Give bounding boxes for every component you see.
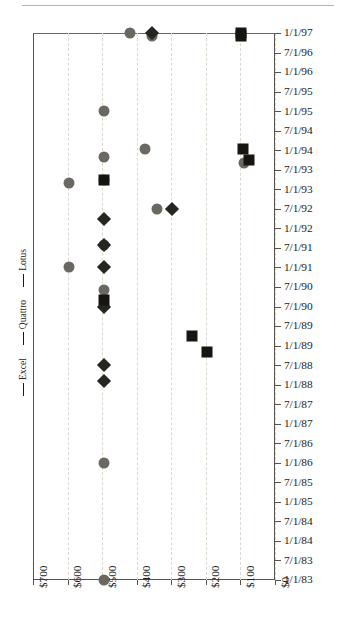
data-point-excel [98,174,109,185]
gridline-400 [137,33,138,580]
data-point-lotus [64,177,75,188]
x-tick-label: $400 [141,566,152,588]
data-point-lotus [125,28,136,39]
y-tick-label: 7/1/95 [284,86,313,97]
y-tick-label: 1/1/89 [284,340,313,351]
y-tick [275,150,281,151]
x-tick [137,580,138,585]
y-tick-label: 1/1/92 [284,223,313,234]
x-tick-label: $300 [176,566,187,588]
y-tick-label: 7/1/86 [284,438,313,449]
y-tick-label: 7/1/83 [284,555,313,566]
y-tick [275,33,281,34]
x-tick [33,580,34,585]
y-tick [275,326,281,327]
y-tick-label: 1/1/84 [284,535,313,546]
y-tick [275,404,281,405]
y-tick [275,443,281,444]
plot-area-frame [33,33,275,580]
y-tick-label: 1/1/97 [284,27,313,38]
legend-label: Quattro [18,300,28,329]
y-tick [275,131,281,132]
data-point-excel [201,347,212,358]
y-tick [275,111,281,112]
y-tick-label: 7/1/94 [284,125,313,136]
y-tick [275,346,281,347]
y-tick [275,209,281,210]
y-tick-label: 1/1/86 [284,457,313,468]
x-tick [68,580,69,585]
y-tick-label: 1/1/96 [284,66,313,77]
page-top-rule [22,5,334,6]
y-tick [275,560,281,561]
y-tick-label: 1/1/88 [284,379,313,390]
x-tick-label: $100 [245,566,256,588]
y-tick-label: 7/1/87 [284,399,313,410]
y-tick [275,170,281,171]
x-tick-label: $0 [280,577,291,588]
quattro-marker-icon [18,332,28,345]
y-tick [275,521,281,522]
data-point-lotus [64,262,75,273]
x-tick [275,580,276,585]
x-tick-label: $200 [210,566,221,588]
y-tick-label: 1/1/94 [284,145,313,156]
data-point-lotus [98,575,109,586]
y-tick-label: 1/1/87 [284,418,313,429]
data-point-excel [235,31,246,42]
y-tick-label: 7/1/90 [284,301,313,312]
y-tick [275,248,281,249]
y-tick-label: 7/1/90 [284,281,313,292]
lotus-marker-icon [18,274,28,287]
y-tick [275,92,281,93]
data-point-lotus [98,106,109,117]
y-tick-label: 1/1/95 [284,106,313,117]
y-tick [275,502,281,503]
data-point-excel [187,330,198,341]
excel-marker-icon [18,383,28,396]
y-tick-label: 7/1/84 [284,516,313,527]
x-tick-label: $600 [72,566,83,588]
y-tick [275,228,281,229]
y-tick [275,365,281,366]
gridline-100 [240,33,241,580]
data-point-excel [98,294,109,305]
y-tick-label: 7/1/91 [284,242,313,253]
y-tick-label: 7/1/96 [284,47,313,58]
y-tick [275,267,281,268]
y-tick [275,53,281,54]
data-point-lotus [98,151,109,162]
y-tick [275,385,281,386]
y-tick [275,463,281,464]
legend-label: Lotus [18,249,28,271]
y-tick-label: 7/1/93 [284,164,313,175]
gridline-600 [68,33,69,580]
x-tick [206,580,207,585]
legend-entry-excel: Excel [18,358,28,396]
data-point-excel [238,143,249,154]
x-tick [171,580,172,585]
data-point-lotus [152,203,163,214]
y-tick-label: 7/1/89 [284,320,313,331]
y-tick-label: 7/1/92 [284,203,313,214]
chart-legend: ExcelQuattroLotus [18,249,28,396]
y-tick-label: 7/1/85 [284,477,313,488]
legend-label: Excel [18,358,28,380]
y-tick [275,482,281,483]
legend-entry-lotus: Lotus [18,249,28,287]
data-point-lotus [98,457,109,468]
gridline-200 [206,33,207,580]
y-tick [275,287,281,288]
scatter-chart-figure: 1/1/977/1/961/1/967/1/951/1/957/1/941/1/… [0,0,341,644]
y-tick [275,541,281,542]
y-tick-label: 1/1/93 [284,184,313,195]
y-tick-label: 7/1/88 [284,360,313,371]
data-point-lotus [140,143,151,154]
y-tick-label: 1/1/91 [284,262,313,273]
x-tick-label: $700 [38,566,49,588]
legend-entry-quattro: Quattro [18,300,28,345]
y-tick [275,307,281,308]
y-tick [275,424,281,425]
data-point-excel [244,154,255,165]
y-tick [275,189,281,190]
